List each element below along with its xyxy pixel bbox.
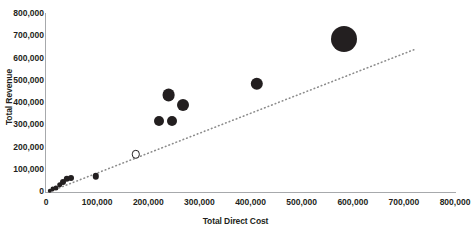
data-point [250,78,262,90]
data-point [92,173,98,179]
scatter-chart: 0100,000200,000300,000400,000500,000600,… [0,0,471,232]
y-axis-title: Total Revenue [4,57,14,137]
data-point [331,26,357,52]
data-point [162,88,175,101]
plot-area [46,14,455,192]
x-tick-label: 700,000 [389,197,420,207]
data-point [68,175,74,181]
x-tick-label: 400,000 [235,197,266,207]
data-point [177,99,189,111]
x-tick-label: 100,000 [82,197,113,207]
x-tick-label: 0 [44,197,49,207]
data-point [167,116,177,126]
y-tick-label: 200,000 [0,143,44,152]
x-axis-title: Total Direct Cost [0,216,471,226]
x-axis-line [46,192,456,193]
data-point [154,116,164,126]
x-tick-label: 600,000 [337,197,368,207]
data-point [132,150,140,158]
x-tick-label: 200,000 [133,197,164,207]
y-tick-label: 0 [0,187,44,196]
x-tick-label: 500,000 [286,197,317,207]
y-tick-label: 100,000 [0,165,44,174]
y-tick-label: 800,000 [0,9,44,18]
x-tick-label: 300,000 [184,197,215,207]
x-tick-label: 800,000 [440,197,471,207]
y-tick-label: 700,000 [0,31,44,40]
